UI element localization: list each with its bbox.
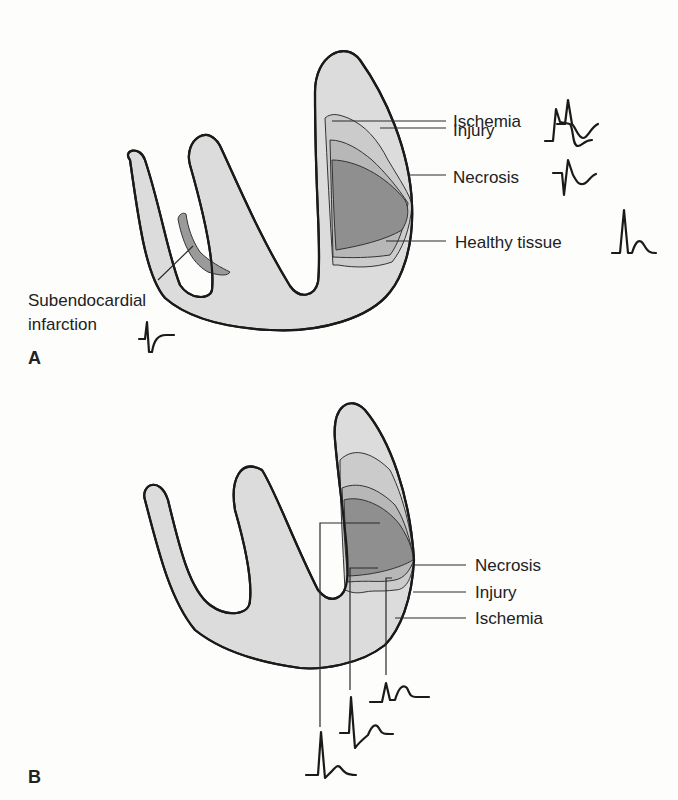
panel-label-b: B bbox=[28, 767, 41, 787]
label-healthy-a: Healthy tissue bbox=[455, 233, 562, 252]
label-necrosis-b: Necrosis bbox=[475, 556, 541, 575]
myocardial-infarction-diagram: Ischemia Injury Necrosis Healthy tissue … bbox=[0, 0, 678, 800]
label-injury-b: Injury bbox=[475, 583, 517, 602]
panel-label-a: A bbox=[28, 348, 41, 368]
panel-b: Necrosis Injury Ischemia B bbox=[28, 403, 544, 787]
ecg-subendocardial-icon bbox=[139, 322, 174, 352]
ecg-b-ischemia-icon bbox=[370, 683, 429, 702]
ecg-injury-icon bbox=[545, 109, 592, 146]
label-necrosis-a: Necrosis bbox=[453, 168, 519, 187]
ecg-healthy-icon bbox=[612, 210, 656, 253]
label-subendocardial-line2: infarction bbox=[28, 315, 97, 334]
label-injury-a: Injury bbox=[453, 121, 495, 140]
label-ischemia-b: Ischemia bbox=[475, 609, 544, 628]
ecg-ischemia-icon bbox=[557, 100, 598, 138]
panel-a: Ischemia Injury Necrosis Healthy tissue … bbox=[28, 51, 656, 368]
ecg-b-necrosis-icon bbox=[306, 732, 356, 778]
ecg-b-injury-icon bbox=[340, 697, 393, 748]
label-subendocardial-line1: Subendocardial bbox=[28, 291, 146, 310]
ecg-necrosis-icon bbox=[553, 160, 596, 195]
